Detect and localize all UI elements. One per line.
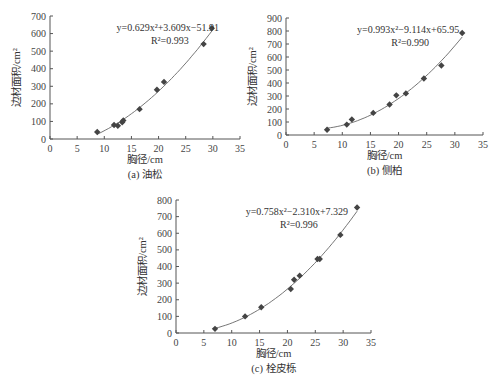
- x-axis-label: 胸径/cm: [127, 153, 163, 165]
- y-tick-label: 100: [157, 311, 172, 322]
- x-tick-label: 15: [365, 139, 375, 150]
- y-tick-label: 400: [267, 78, 282, 89]
- r-squared-label: R²=0.990: [391, 37, 429, 48]
- chart-panel-c: 010020030040050060070080005101520253035y…: [136, 195, 376, 376]
- data-point-marker: [136, 106, 142, 112]
- y-axis-label: 边材面积/cm²: [246, 47, 258, 106]
- y-tick-label: 0: [167, 328, 172, 339]
- x-tick-label: 30: [208, 143, 218, 154]
- y-tick-label: 300: [267, 91, 282, 102]
- figure-canvas: 010020030040050060070005101520253035y=0.…: [0, 0, 495, 383]
- x-tick-label: 5: [201, 337, 206, 348]
- equation-label: y=0.629x²+3.609x−51.91: [117, 22, 219, 33]
- data-point-marker: [344, 121, 350, 127]
- equation-label: y=0.758x²−2.310x+7.329: [246, 206, 348, 217]
- y-tick-label: 0: [277, 130, 282, 141]
- y-tick-label: 700: [267, 39, 282, 50]
- x-tick-label: 30: [450, 139, 460, 150]
- y-tick-label: 100: [31, 116, 46, 127]
- y-tick-label: 800: [157, 195, 172, 206]
- r-squared-label: R²=0.996: [280, 219, 318, 230]
- y-tick-label: 500: [267, 65, 282, 76]
- y-tick-label: 400: [31, 63, 46, 74]
- y-tick-label: 300: [157, 278, 172, 289]
- data-point-marker: [386, 101, 392, 107]
- x-tick-label: 10: [99, 143, 109, 154]
- y-tick-label: 200: [31, 98, 46, 109]
- x-tick-label: 15: [126, 143, 136, 154]
- y-tick-label: 900: [267, 13, 282, 24]
- x-tick-label: 35: [478, 139, 488, 150]
- x-tick-label: 25: [422, 139, 432, 150]
- x-tick-label: 25: [181, 143, 191, 154]
- x-tick-label: 20: [282, 337, 292, 348]
- data-point-marker: [337, 232, 343, 238]
- y-tick-label: 700: [31, 11, 46, 22]
- x-tick-label: 10: [337, 139, 347, 150]
- chart-panel-a: 010020030040050060070005101520253035y=0.…: [10, 11, 245, 182]
- y-tick-label: 300: [31, 81, 46, 92]
- data-point-marker: [94, 129, 100, 135]
- x-tick-label: 20: [394, 139, 404, 150]
- y-tick-label: 700: [157, 211, 172, 222]
- x-tick-label: 0: [48, 143, 53, 154]
- panel-caption: (a) 油松: [128, 168, 163, 181]
- data-point-marker: [288, 286, 294, 292]
- y-axis-label: 边材面积/cm²: [10, 48, 22, 107]
- y-tick-label: 500: [31, 46, 46, 57]
- y-tick-label: 200: [157, 294, 172, 305]
- x-tick-label: 15: [255, 337, 265, 348]
- data-point-marker: [291, 277, 297, 283]
- x-tick-label: 0: [284, 139, 289, 150]
- data-point-marker: [459, 30, 465, 36]
- y-tick-label: 600: [31, 28, 46, 39]
- x-axis-label: 胸径/cm: [367, 149, 403, 161]
- y-tick-label: 600: [157, 228, 172, 239]
- x-tick-label: 25: [310, 337, 320, 348]
- y-tick-label: 800: [267, 26, 282, 37]
- equation-label: y=0.993x²−9.114x+65.95: [357, 24, 459, 35]
- y-tick-label: 500: [157, 244, 172, 255]
- data-point-marker: [200, 41, 206, 47]
- x-tick-label: 30: [338, 337, 348, 348]
- chart-panel-b: 0100200300400500600700800900051015202530…: [246, 13, 488, 178]
- x-tick-label: 20: [154, 143, 164, 154]
- y-tick-label: 200: [267, 104, 282, 115]
- data-point-marker: [354, 204, 360, 210]
- x-tick-label: 35: [366, 337, 376, 348]
- data-point-marker: [393, 92, 399, 98]
- y-tick-label: 100: [267, 117, 282, 128]
- y-tick-label: 0: [41, 134, 46, 145]
- panel-caption: (b) 侧柏: [367, 164, 402, 177]
- fit-curve: [97, 31, 212, 134]
- x-tick-label: 35: [235, 143, 245, 154]
- x-tick-label: 5: [312, 139, 317, 150]
- data-point-marker: [212, 326, 218, 332]
- x-tick-label: 10: [227, 337, 237, 348]
- y-axis-label: 边材面积/cm²: [136, 237, 148, 296]
- y-tick-label: 600: [267, 52, 282, 63]
- x-tick-label: 0: [174, 337, 179, 348]
- r-squared-label: R²=0.993: [151, 35, 189, 46]
- fit-curve: [327, 37, 462, 128]
- data-point-marker: [296, 272, 302, 278]
- panel-caption: (c) 栓皮栎: [251, 362, 296, 375]
- y-tick-label: 400: [157, 261, 172, 272]
- x-axis-label: 胸径/cm: [256, 347, 292, 359]
- data-point-marker: [154, 87, 160, 93]
- x-tick-label: 5: [75, 143, 80, 154]
